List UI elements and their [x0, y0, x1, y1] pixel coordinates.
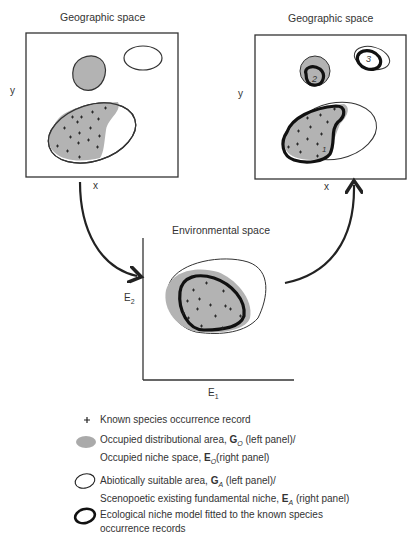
thick-ellipse-icon	[74, 507, 97, 526]
env-x-label: E1	[208, 387, 219, 400]
right-x-label: x	[324, 181, 329, 192]
env-y-label: E2	[124, 292, 135, 305]
occupied-area-small	[73, 56, 106, 90]
thin-ellipse-icon	[74, 472, 97, 491]
right-y-label: y	[238, 88, 243, 99]
legend-item-suitable: Abiotically suitable area, GA (left pane…	[100, 474, 349, 510]
suitable-area-small	[124, 46, 162, 70]
left-x-label: x	[93, 180, 98, 191]
arrow-geo-to-env	[80, 182, 137, 276]
legend-item-model: Ecological niche model fitted to the kno…	[100, 508, 323, 536]
right-panel-title: Geographic space	[288, 12, 373, 24]
legend-item-occurrence: Known species occurrence record	[100, 414, 251, 425]
legend-item-occupied: Occupied distributional area, GO (left p…	[100, 433, 296, 469]
region-label-3: 3	[366, 54, 371, 64]
grey-ellipse-icon	[76, 436, 96, 448]
left-geographic-panel	[26, 33, 178, 177]
environmental-panel	[143, 238, 294, 380]
environmental-panel-title: Environmental space	[172, 224, 270, 236]
plus-icon	[84, 417, 90, 423]
arrow-env-to-geo	[285, 185, 354, 283]
region-label-2: 2	[312, 74, 317, 84]
region-label-1: 1	[322, 145, 326, 154]
right-geographic-panel	[255, 35, 406, 179]
left-panel-title: Geographic space	[60, 11, 145, 23]
legend-symbols	[74, 417, 97, 525]
left-y-label: y	[10, 85, 15, 96]
